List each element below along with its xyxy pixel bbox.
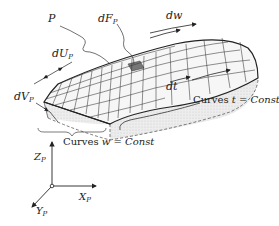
dw-arrows bbox=[150, 24, 196, 38]
label-x-axis: XP bbox=[78, 191, 91, 204]
origin bbox=[50, 184, 54, 188]
y-axis bbox=[32, 186, 52, 207]
label-curves-t: Curves t = Const bbox=[193, 94, 279, 105]
label-y-axis: YP bbox=[36, 205, 48, 218]
label-P: P bbox=[47, 12, 56, 25]
label-dU: dUP bbox=[52, 47, 73, 61]
brace bbox=[38, 128, 106, 136]
label-dt: dt bbox=[166, 80, 178, 93]
label-curves-w: Curves w = Const bbox=[63, 136, 155, 147]
label-z-axis: ZP bbox=[33, 151, 46, 164]
label-dw: dw bbox=[166, 9, 183, 22]
label-dV: dVP bbox=[14, 90, 34, 104]
label-dF: dFP bbox=[98, 12, 118, 26]
surface-diagram: P dFP dw dUP dVP dt Curves t = Const Cur… bbox=[0, 0, 279, 226]
